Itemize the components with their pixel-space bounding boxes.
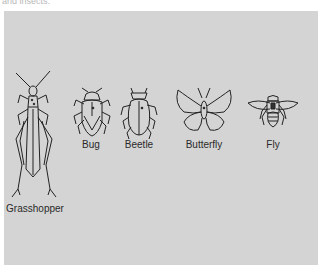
bug-label: Bug (82, 139, 100, 150)
grasshopper-label: Grasshopper (6, 203, 64, 214)
beetle-illustration (119, 87, 159, 139)
grasshopper-illustration (8, 69, 60, 199)
grasshopper-icon (8, 69, 60, 199)
butterfly-illustration (174, 84, 234, 134)
fly-illustration (246, 91, 300, 131)
butterfly-icon (174, 84, 234, 134)
insect-illustration-panel: Grasshopper Bug Beetle (4, 11, 318, 265)
caption-text: and insects. (2, 0, 50, 6)
fly-icon (246, 91, 300, 131)
bug-icon (72, 86, 112, 138)
butterfly-label: Butterfly (186, 139, 223, 150)
fly-label: Fly (266, 139, 279, 150)
beetle-label: Beetle (125, 139, 153, 150)
bug-illustration (72, 86, 112, 138)
beetle-icon (119, 87, 159, 139)
